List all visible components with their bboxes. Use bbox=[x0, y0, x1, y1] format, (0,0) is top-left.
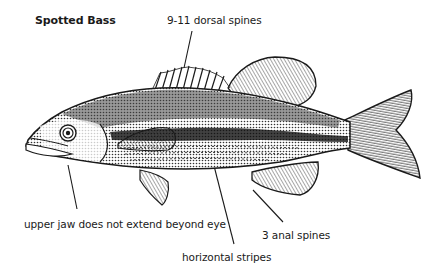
anal-fin bbox=[252, 162, 318, 195]
eye-icon bbox=[60, 125, 76, 141]
caudal-fin bbox=[345, 90, 420, 178]
spotted-bass-illustration bbox=[0, 0, 439, 272]
leader-anal bbox=[253, 190, 283, 222]
leader-dorsal bbox=[184, 31, 192, 68]
leader-stripes bbox=[212, 158, 234, 244]
pelvic-fin bbox=[140, 170, 169, 205]
leader-jaw bbox=[68, 165, 77, 209]
